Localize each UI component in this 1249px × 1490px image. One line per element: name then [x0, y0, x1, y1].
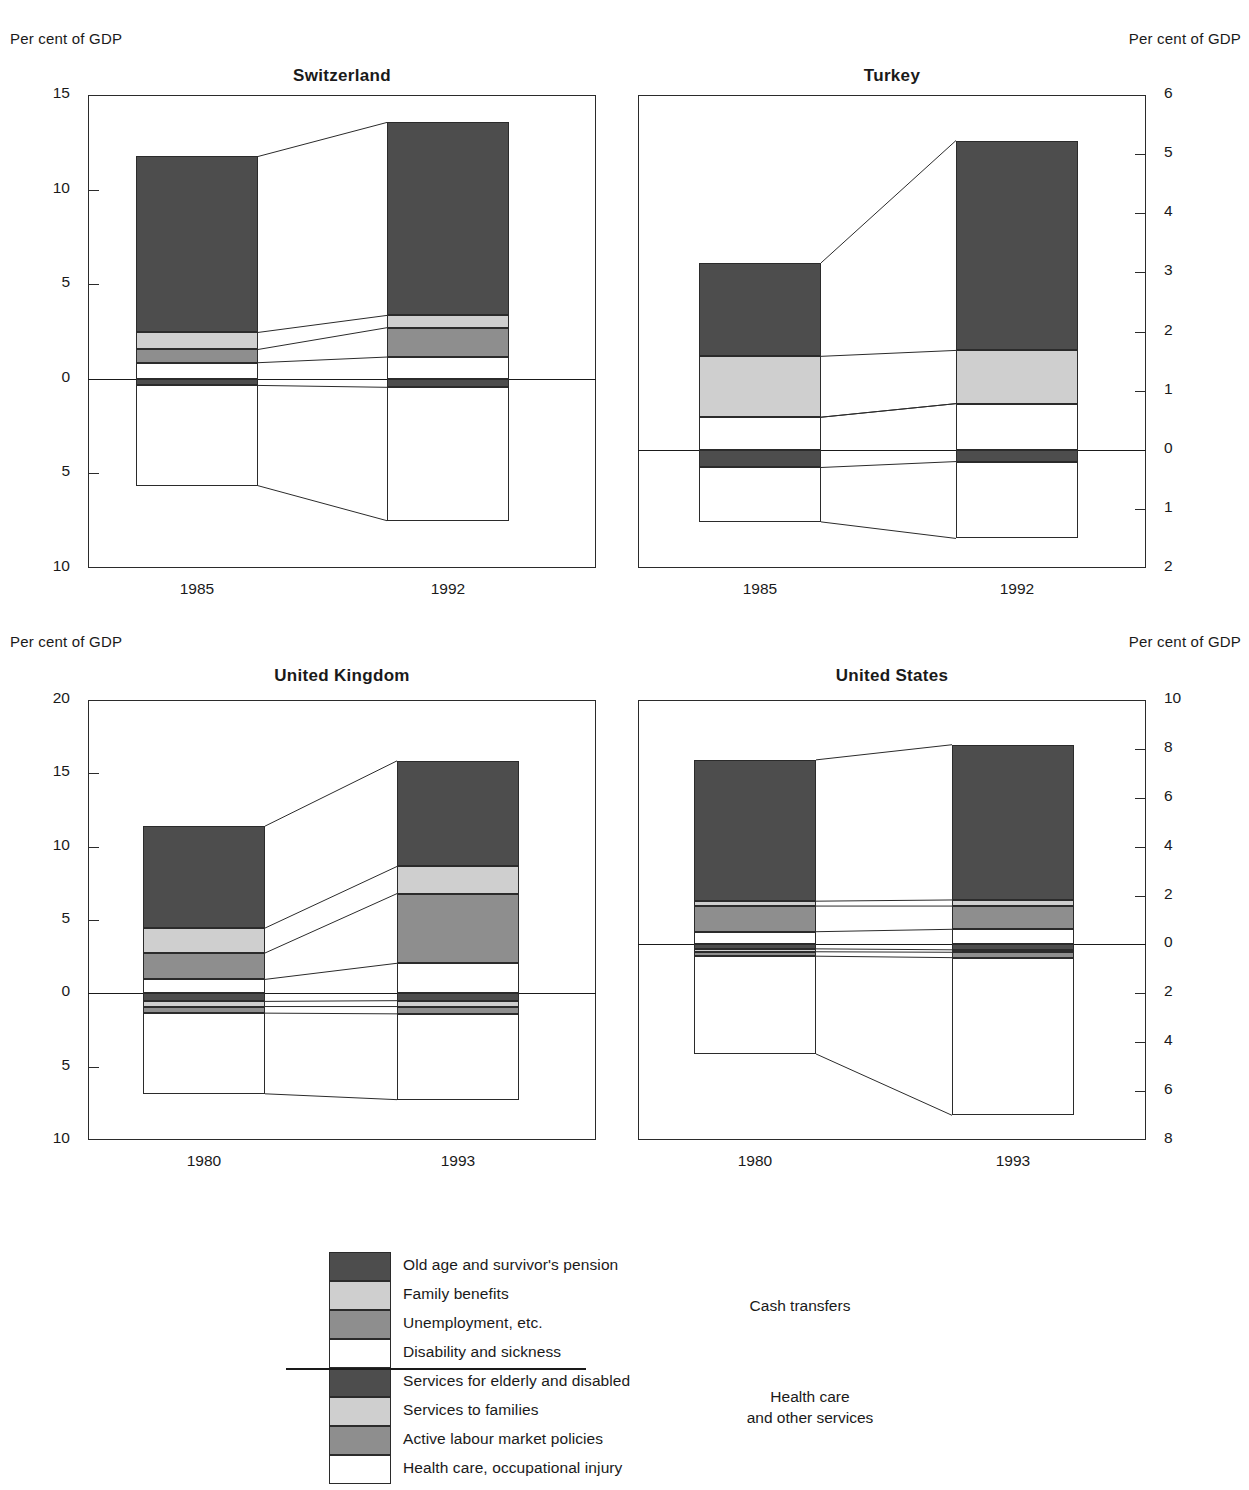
legend-label-services_elderly: Services for elderly and disabled [403, 1372, 630, 1390]
legend-swatch-services_elderly [329, 1368, 391, 1397]
legend-group-cash-transfers: Cash transfers [700, 1296, 900, 1317]
legend-group-health-care-line2: and other services [700, 1408, 920, 1429]
legend-label-pension: Old age and survivor's pension [403, 1256, 618, 1274]
legend-swatch-pension [329, 1252, 391, 1281]
legend-label-health_care: Health care, occupational injury [403, 1459, 622, 1477]
legend-swatch-family_benefits [329, 1281, 391, 1310]
chart-legend: Old age and survivor's pensionFamily ben… [0, 0, 1249, 1490]
legend-swatch-almp [329, 1426, 391, 1455]
legend-group-health-care: Health careand other services [700, 1387, 920, 1429]
legend-label-services_families: Services to families [403, 1401, 539, 1419]
legend-label-almp: Active labour market policies [403, 1430, 603, 1448]
legend-label-family_benefits: Family benefits [403, 1285, 509, 1303]
legend-swatch-health_care [329, 1455, 391, 1484]
legend-label-disability: Disability and sickness [403, 1343, 561, 1361]
figure-root: Per cent of GDP Per cent of GDP Per cent… [0, 0, 1249, 1490]
legend-swatch-unemployment [329, 1310, 391, 1339]
legend-swatch-services_families [329, 1397, 391, 1426]
legend-swatch-disability [329, 1339, 391, 1368]
legend-group-health-care-line1: Health care [700, 1387, 920, 1408]
legend-divider-rule [286, 1368, 586, 1370]
legend-label-unemployment: Unemployment, etc. [403, 1314, 543, 1332]
